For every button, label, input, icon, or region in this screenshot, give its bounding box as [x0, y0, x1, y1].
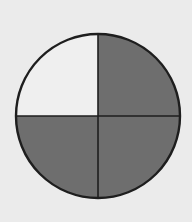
fraction-diagram	[0, 0, 192, 222]
fraction-circle	[0, 0, 192, 222]
